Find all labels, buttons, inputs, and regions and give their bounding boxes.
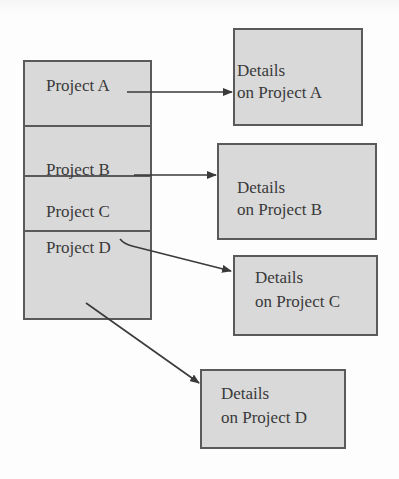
project-label-c: Project C: [46, 202, 110, 222]
project-label-d: Project D: [46, 238, 111, 258]
details-d-line1: Details: [221, 383, 269, 405]
scan-bleed-artifact: [0, 0, 399, 14]
details-b-line1: Details: [237, 177, 285, 199]
project-stack: Project A Project B Project C Project D: [23, 60, 152, 320]
details-box-a: Details on Project A: [233, 28, 363, 126]
details-box-b: Details on Project B: [217, 143, 377, 240]
details-box-d: Details on Project D: [200, 369, 346, 449]
project-cell-d: Project D: [25, 232, 150, 318]
details-a-line1: Details: [237, 60, 285, 82]
diagram-canvas: Project A Project B Project C Project D …: [0, 0, 399, 479]
details-c-line1: Details: [255, 267, 303, 289]
details-c-line2: on Project C: [255, 291, 340, 313]
details-d-line2: on Project D: [221, 407, 307, 429]
project-cell-c: Project C: [25, 177, 150, 232]
project-cell-a: Project A: [25, 62, 150, 127]
details-a-line2: on Project A: [237, 82, 322, 104]
project-cell-b: Project B: [25, 127, 150, 177]
details-b-line2: on Project B: [237, 199, 322, 221]
details-box-c: Details on Project C: [233, 255, 378, 336]
project-label-a: Project A: [46, 76, 110, 96]
